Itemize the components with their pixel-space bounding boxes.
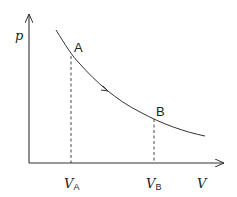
tick-label-vb: VB bbox=[146, 176, 161, 192]
pv-diagram: p V A B VA VB bbox=[0, 0, 237, 197]
point-b-label: B bbox=[156, 104, 165, 119]
x-axis-label: V bbox=[197, 176, 208, 191]
point-a-label: A bbox=[74, 40, 83, 55]
tick-label-va: VA bbox=[64, 176, 79, 192]
tick-vb-sub: B bbox=[155, 182, 161, 192]
tick-va-sub: A bbox=[73, 182, 79, 192]
y-axis-label: p bbox=[15, 28, 24, 43]
